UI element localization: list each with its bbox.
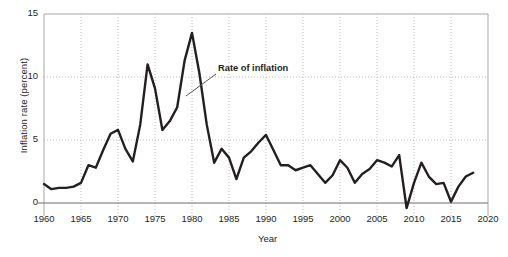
inflation-rate-chart: Inflation rate (percent) Year 051015 196… — [0, 0, 508, 257]
plot-area — [0, 0, 508, 257]
annotation-rate-of-inflation: Rate of inflation — [218, 63, 288, 73]
data-line-rate-of-inflation — [44, 33, 473, 208]
